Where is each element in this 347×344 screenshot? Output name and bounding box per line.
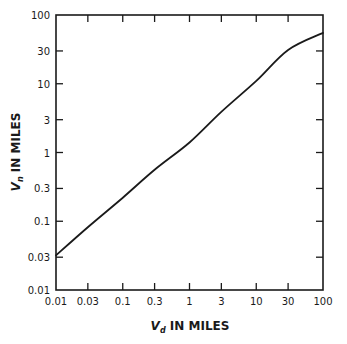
y-axis-label: Vn IN MILES	[9, 113, 25, 192]
y-tick-label: 0.03	[28, 252, 50, 263]
x-axis-ticks: 0.010.030.10.3131030100	[45, 15, 333, 307]
x-tick-label: 0.03	[77, 296, 99, 307]
x-tick-label: 0.01	[45, 296, 67, 307]
y-tick-label: 0.01	[28, 285, 50, 296]
x-tick-label: 0.3	[147, 296, 163, 307]
y-tick-label: 3	[44, 115, 50, 126]
chart-canvas: 0.010.030.10.3131030100 0.010.030.10.313…	[0, 0, 347, 344]
x-tick-label: 1	[186, 296, 192, 307]
chart: 0.010.030.10.3131030100 0.010.030.10.313…	[0, 0, 347, 344]
svg-text:Vd IN MILES: Vd IN MILES	[151, 319, 230, 335]
svg-text:Vn IN MILES: Vn IN MILES	[9, 113, 25, 192]
x-tick-label: 3	[218, 296, 224, 307]
y-tick-label: 0.3	[34, 183, 50, 194]
x-tick-label: 10	[250, 296, 263, 307]
y-tick-label: 100	[31, 10, 50, 21]
y-tick-label: 10	[37, 79, 50, 90]
x-axis-label: Vd IN MILES	[151, 319, 230, 335]
data-series	[56, 33, 323, 255]
x-axis-label-units: IN MILES	[170, 319, 230, 333]
plot-frame	[56, 15, 323, 290]
y-tick-label: 30	[37, 46, 50, 57]
y-axis-label-units: IN MILES	[9, 113, 23, 173]
y-tick-label: 1	[44, 148, 50, 159]
x-tick-label: 0.1	[115, 296, 131, 307]
data-line	[56, 33, 323, 255]
plot-border	[56, 15, 323, 290]
x-tick-label: 30	[282, 296, 295, 307]
y-tick-label: 0.1	[34, 216, 50, 227]
x-tick-label: 100	[313, 296, 332, 307]
